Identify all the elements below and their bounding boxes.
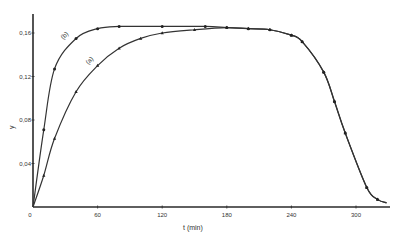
data-point-b — [225, 26, 228, 29]
data-point-b — [53, 67, 56, 70]
data-point-b — [268, 28, 271, 31]
y-tick-label: 0,08 — [19, 117, 31, 123]
x-tick-label: 240 — [286, 212, 297, 218]
y-tick-label: 0,04 — [19, 161, 31, 167]
x-tick-label: 180 — [222, 212, 233, 218]
curve-a — [33, 28, 387, 207]
data-point-b — [290, 34, 293, 37]
curve-label-a: (a) — [84, 55, 95, 66]
data-point-b — [247, 27, 250, 30]
markers — [42, 25, 379, 201]
ticks: 0601201802403000,040,080,120,16 — [19, 30, 361, 218]
x-tick-label: 120 — [157, 212, 168, 218]
chart: 0601201802403000,040,080,120,16 t (min) … — [0, 0, 403, 242]
curves — [33, 26, 387, 207]
y-tick-label: 0,16 — [19, 30, 31, 36]
data-point-b — [96, 27, 99, 30]
labels: t (min) y (a)(b) — [8, 30, 203, 232]
data-point-b — [365, 186, 368, 189]
y-tick-label: 0,12 — [19, 74, 31, 80]
data-point-b — [344, 132, 347, 135]
data-point-b — [376, 198, 379, 201]
x-axis-label: t (min) — [183, 224, 203, 232]
data-point-b — [322, 71, 325, 74]
x-tick-label: 60 — [94, 212, 101, 218]
data-point-b — [333, 100, 336, 103]
data-point-b — [118, 25, 121, 28]
data-point-b — [301, 40, 304, 43]
curve-b — [33, 26, 387, 207]
y-axis-label: y — [8, 125, 16, 129]
data-point-a — [42, 174, 45, 177]
axes — [33, 14, 390, 207]
curve-label-b: (b) — [59, 30, 70, 41]
data-point-b — [204, 25, 207, 28]
data-point-b — [161, 25, 164, 28]
data-point-b — [42, 128, 45, 131]
data-point-b — [75, 37, 78, 40]
x-tick-label: 300 — [351, 212, 362, 218]
x-tick-label: 0 — [28, 212, 32, 218]
